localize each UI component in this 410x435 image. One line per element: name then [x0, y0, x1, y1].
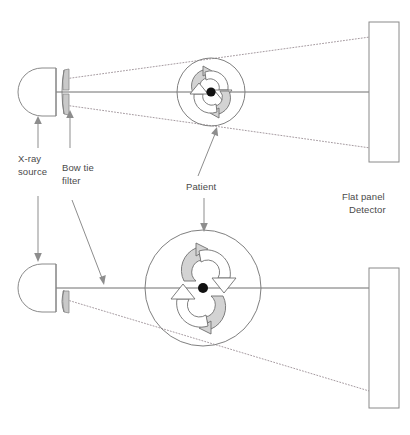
isocenter-dot-top	[206, 87, 215, 96]
rotation-arrow-bottom-right-head-b	[212, 278, 236, 293]
flat-panel-detector-bottom	[369, 268, 399, 408]
arrow-patient-up-line	[198, 134, 215, 176]
rotation-arrow-bottom-right-shaft-b	[199, 250, 230, 278]
arrow-xray-source-down-head	[34, 253, 42, 262]
label-patient: Patient	[186, 181, 217, 192]
arrow-xray-source-up-head	[34, 116, 42, 124]
arrow-bowtie-down-head	[99, 275, 106, 285]
diagram-canvas: X-ray source Bow tie filter Patient Flat…	[0, 0, 410, 435]
xray-source-top	[18, 68, 56, 116]
ct-geometry-diagram: X-ray source Bow tie filter Patient Flat…	[0, 0, 410, 435]
xray-source-bottom	[18, 264, 56, 312]
bottom-panel	[18, 230, 399, 408]
label-detector-line2: Detector	[349, 204, 386, 215]
diagram-labels: X-ray source Bow tie filter Patient Flat…	[18, 153, 386, 215]
rotation-arrow-top-right-shaft	[205, 71, 228, 90]
rotation-arrow-bottom-left2-head-b	[171, 284, 195, 299]
arrow-patient-down-head	[200, 223, 208, 232]
label-xray-source-line1: X-ray	[18, 153, 41, 164]
beam-lower-top	[64, 105, 399, 152]
rotation-arrow-bottom-left-shaft	[194, 94, 217, 113]
rotation-arrow-bottom-left2-shaft-b	[177, 299, 208, 327]
flat-panel-detector-top	[369, 22, 399, 162]
isocenter-dot-bottom	[198, 283, 208, 293]
label-bowtie-filter-line2: filter	[62, 175, 81, 186]
beam-upper-top	[64, 33, 399, 79]
beam-lower-bottom	[64, 299, 399, 400]
arrow-bowtie-down-line	[72, 200, 102, 278]
label-detector-line1: Flat panel	[342, 191, 385, 202]
label-xray-source-line2: source	[18, 166, 47, 177]
top-panel	[18, 22, 399, 162]
label-bowtie-filter-line1: Bow tie	[62, 162, 94, 173]
